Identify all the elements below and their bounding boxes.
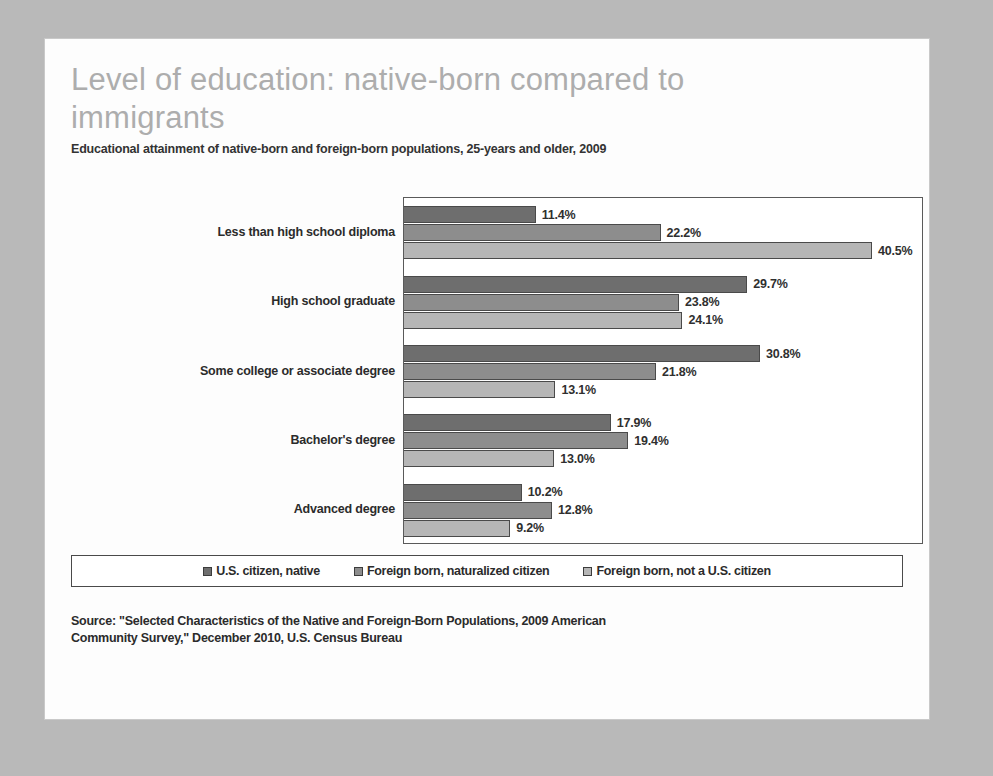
category-axis: Less than high school diplomaHigh school… bbox=[71, 197, 403, 544]
bar-3[interactable] bbox=[404, 520, 510, 537]
chart-legend: U.S. citizen, nativeForeign born, natura… bbox=[71, 555, 903, 587]
bar-value-label: 10.2% bbox=[522, 485, 562, 499]
bar-group: 11.4%22.2%40.5% bbox=[404, 206, 922, 260]
bar-2[interactable] bbox=[404, 294, 679, 311]
bar-2[interactable] bbox=[404, 224, 661, 241]
chart-subtitle: Educational attainment of native-born an… bbox=[71, 142, 871, 156]
bar-value-label: 24.1% bbox=[682, 313, 722, 327]
title-block: Level of education: native-born compared… bbox=[71, 61, 871, 156]
bar-group: 30.8%21.8%13.1% bbox=[404, 345, 922, 399]
bar-row: 21.8% bbox=[404, 363, 922, 380]
bar-row: 24.1% bbox=[404, 312, 922, 329]
bar-row: 10.2% bbox=[404, 484, 922, 501]
bar-1[interactable] bbox=[404, 206, 536, 223]
bar-group: 29.7%23.8%24.1% bbox=[404, 276, 922, 330]
plot-area: 11.4%22.2%40.5%29.7%23.8%24.1%30.8%21.8%… bbox=[403, 197, 923, 544]
bar-value-label: 21.8% bbox=[656, 365, 696, 379]
bar-row: 17.9% bbox=[404, 414, 922, 431]
bar-value-label: 11.4% bbox=[536, 208, 576, 222]
category-label: Less than high school diploma bbox=[95, 224, 395, 239]
chart-plot-wrapper: Less than high school diplomaHigh school… bbox=[71, 197, 903, 544]
bar-row: 11.4% bbox=[404, 206, 922, 223]
legend-item-label: Foreign born, naturalized citizen bbox=[367, 564, 549, 578]
bar-1[interactable] bbox=[404, 414, 611, 431]
legend-item-3[interactable]: Foreign born, not a U.S. citizen bbox=[583, 564, 770, 578]
category-label: Some college or associate degree bbox=[95, 363, 395, 378]
bar-1[interactable] bbox=[404, 484, 522, 501]
bar-row: 9.2% bbox=[404, 520, 922, 537]
bar-3[interactable] bbox=[404, 381, 555, 398]
slide-card: Level of education: native-born compared… bbox=[44, 38, 930, 720]
bar-value-label: 19.4% bbox=[628, 434, 668, 448]
bar-value-label: 13.0% bbox=[554, 452, 594, 466]
bar-row: 29.7% bbox=[404, 276, 922, 293]
bar-row: 22.2% bbox=[404, 224, 922, 241]
bar-2[interactable] bbox=[404, 502, 552, 519]
bar-value-label: 22.2% bbox=[661, 226, 701, 240]
bar-2[interactable] bbox=[404, 432, 628, 449]
legend-item-2[interactable]: Foreign born, naturalized citizen bbox=[354, 564, 549, 578]
bar-row: 40.5% bbox=[404, 242, 922, 259]
bar-value-label: 29.7% bbox=[747, 277, 787, 291]
bar-value-label: 17.9% bbox=[611, 416, 651, 430]
bar-group: 17.9%19.4%13.0% bbox=[404, 414, 922, 468]
bar-value-label: 40.5% bbox=[872, 244, 912, 258]
bar-row: 19.4% bbox=[404, 432, 922, 449]
legend-item-1[interactable]: U.S. citizen, native bbox=[203, 564, 320, 578]
bar-group: 10.2%12.8%9.2% bbox=[404, 484, 922, 538]
legend-item-label: U.S. citizen, native bbox=[216, 564, 320, 578]
bar-3[interactable] bbox=[404, 312, 682, 329]
category-label: High school graduate bbox=[95, 294, 395, 309]
bar-row: 13.1% bbox=[404, 381, 922, 398]
bar-value-label: 23.8% bbox=[679, 295, 719, 309]
legend-swatch-square-icon bbox=[203, 567, 212, 576]
bar-row: 30.8% bbox=[404, 345, 922, 362]
bar-value-label: 13.1% bbox=[555, 383, 595, 397]
source-note: Source: "Selected Characteristics of the… bbox=[71, 613, 831, 647]
category-label: Bachelor's degree bbox=[95, 432, 395, 447]
bar-row: 13.0% bbox=[404, 450, 922, 467]
bar-value-label: 9.2% bbox=[510, 521, 544, 535]
bar-row: 12.8% bbox=[404, 502, 922, 519]
bar-1[interactable] bbox=[404, 276, 747, 293]
bar-3[interactable] bbox=[404, 450, 554, 467]
bar-value-label: 12.8% bbox=[552, 503, 592, 517]
legend-swatch-square-icon bbox=[583, 567, 592, 576]
bar-2[interactable] bbox=[404, 363, 656, 380]
bar-row: 23.8% bbox=[404, 294, 922, 311]
category-label: Advanced degree bbox=[95, 502, 395, 517]
page-title: Level of education: native-born compared… bbox=[71, 61, 871, 137]
bar-1[interactable] bbox=[404, 345, 760, 362]
bar-3[interactable] bbox=[404, 242, 872, 259]
legend-swatch-square-icon bbox=[354, 567, 363, 576]
bar-value-label: 30.8% bbox=[760, 347, 800, 361]
legend-item-label: Foreign born, not a U.S. citizen bbox=[596, 564, 770, 578]
